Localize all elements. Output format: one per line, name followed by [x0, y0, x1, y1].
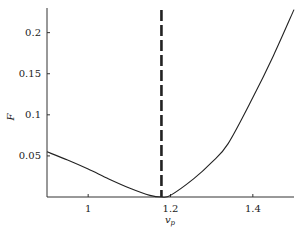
y-tick-label: 0.1 — [25, 109, 41, 120]
y-tick-label: 0.2 — [25, 27, 41, 38]
y-tick-label: 0.05 — [19, 150, 41, 161]
y-ticks: 0.050.10.150.2 — [19, 27, 50, 161]
x-tick-label: 1.4 — [245, 203, 261, 214]
x-axis-label: vp — [165, 214, 176, 227]
y-axis-label: F — [5, 112, 16, 121]
x-tick-label: 1.2 — [163, 203, 179, 214]
x-tick-label: 1 — [85, 203, 91, 214]
series-line — [47, 10, 294, 198]
y-tick-label: 0.15 — [19, 68, 41, 79]
plot-area: 11.21.4 0.050.10.150.2 — [19, 8, 294, 214]
chart: 11.21.4 0.050.10.150.2 vp F — [0, 0, 303, 242]
